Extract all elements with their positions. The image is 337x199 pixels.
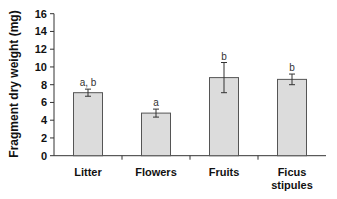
y-tick-label: 10: [35, 61, 47, 73]
y-tick-label: 12: [35, 43, 47, 55]
y-tick-label: 14: [35, 25, 48, 37]
bars: a, babb: [74, 51, 307, 156]
x-category-label: Litter: [74, 166, 102, 178]
bar: [278, 79, 307, 155]
y-axis-label: Fragment dry weight (mg): [7, 10, 21, 157]
bar: [142, 113, 171, 156]
y-tick-label: 8: [41, 79, 47, 91]
y-tick-label: 4: [41, 114, 48, 126]
x-category-label: Fruits: [209, 166, 240, 178]
bar-chart: 0246810121416 a, babb LitterFlowersFruit…: [0, 0, 337, 199]
x-axis-labels: LitterFlowersFruitsFicusstipules: [74, 166, 313, 191]
y-axis: 0246810121416: [35, 8, 54, 162]
y-tick-label: 16: [35, 8, 47, 20]
significance-letter: a: [153, 97, 159, 108]
x-axis: [54, 156, 326, 160]
bar: [74, 93, 103, 156]
significance-letter: a, b: [80, 77, 97, 88]
x-category-label: Ficus: [278, 166, 307, 178]
y-tick-label: 2: [41, 132, 47, 144]
x-category-label: Flowers: [135, 166, 177, 178]
significance-letter: b: [221, 51, 227, 62]
y-tick-label: 6: [41, 96, 47, 108]
significance-letter: b: [289, 62, 295, 73]
x-category-label: stipules: [271, 179, 313, 191]
y-tick-label: 0: [41, 150, 47, 162]
